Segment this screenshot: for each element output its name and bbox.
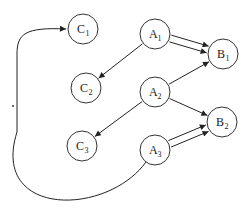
- node-A2: A2: [140, 77, 170, 107]
- edges-layer: [13, 29, 209, 200]
- edge-A3-C1: [13, 29, 146, 200]
- edge-A2-B2: [170, 99, 208, 116]
- edge-A2-B1: [169, 62, 209, 84]
- edge-A3-B2: [168, 125, 205, 141]
- edge-A3-B2: [171, 131, 208, 147]
- node-A1: A1: [140, 19, 170, 49]
- graph-diagram: C1C2C3A1A2A3B1B2: [0, 0, 251, 208]
- node-label: B: [216, 115, 224, 129]
- node-subscript: 3: [85, 146, 89, 155]
- node-A3: A3: [140, 135, 170, 165]
- node-subscript: 1: [158, 34, 162, 43]
- nodes-layer: C1C2C3A1A2A3B1B2: [67, 14, 238, 165]
- node-subscript: 2: [158, 92, 162, 101]
- edge-A2-C3: [95, 102, 142, 137]
- node-C2: C2: [71, 73, 101, 103]
- node-label: B: [217, 47, 225, 61]
- node-subscript: 1: [86, 29, 90, 38]
- node-subscript: 1: [226, 54, 230, 63]
- node-B1: B1: [208, 39, 238, 69]
- node-C3: C3: [67, 131, 97, 161]
- node-label: C: [77, 22, 85, 36]
- edge-A1-C2: [99, 44, 143, 78]
- stray-dot: [12, 105, 14, 107]
- node-subscript: 2: [225, 122, 229, 131]
- node-B2: B2: [207, 107, 237, 137]
- node-subscript: 3: [158, 150, 162, 159]
- node-C1: C1: [68, 14, 98, 44]
- node-label: C: [76, 139, 84, 153]
- node-label: C: [80, 81, 88, 95]
- node-subscript: 2: [89, 88, 93, 97]
